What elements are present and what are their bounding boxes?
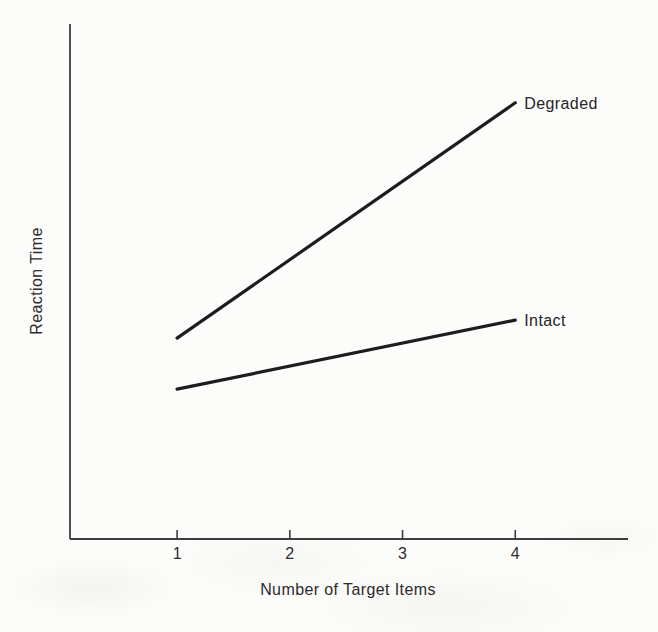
x-tick-label: 1 [173,545,182,562]
series-label-intact: Intact [524,312,566,329]
x-ticks-layer: 1234 [173,530,520,562]
y-axis-title: Reaction Time [28,227,45,334]
series-labels-layer: DegradedIntact [524,95,597,329]
scanned-figure-page: 1234 DegradedIntact Number of Target Ite… [0,0,658,632]
x-tick-label: 3 [398,545,407,562]
series-line-degraded [177,103,515,338]
x-tick-label: 2 [285,545,294,562]
series-line-intact [177,320,515,389]
series-label-degraded: Degraded [524,95,597,112]
data-series-layer [177,103,515,389]
reaction-time-line-chart: 1234 DegradedIntact Number of Target Ite… [0,0,658,632]
x-axis-title: Number of Target Items [260,581,436,598]
x-tick-label: 4 [511,545,520,562]
